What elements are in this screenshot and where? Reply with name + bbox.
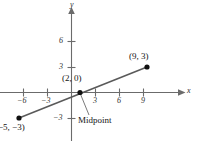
point-left-endpoint <box>16 115 21 120</box>
point-midpoint <box>77 90 82 95</box>
midpoint-coordinate-label: (2, 0) <box>62 74 82 83</box>
y-tick-label-6: 6 <box>59 37 63 45</box>
x-tick-label-3: 3 <box>93 97 97 105</box>
point-right-endpoint <box>144 64 149 69</box>
left-endpoint-label: −5, −3) <box>0 123 25 132</box>
x-tick-label-6: 6 <box>117 97 121 105</box>
x-tick-label-9: 9 <box>141 97 145 105</box>
y-tick-label-neg3: −3 <box>53 114 62 122</box>
x-tick-label-neg3: −3 <box>41 97 50 105</box>
right-endpoint-label: (9, 3) <box>129 52 149 61</box>
y-axis-label: y <box>70 1 74 9</box>
x-axis-label: x <box>187 87 191 95</box>
y-tick-label-3: 3 <box>59 63 63 71</box>
midpoint-leader-line <box>80 93 89 115</box>
x-axis <box>0 89 186 96</box>
coordinate-plane-figure: y x −6 −3 3 6 9 6 3 −3 −5, −3) (2, 0) (9… <box>0 0 197 141</box>
midpoint-annotation-text: Midpoint <box>78 116 112 125</box>
x-tick-label-neg6: −6 <box>17 97 26 105</box>
